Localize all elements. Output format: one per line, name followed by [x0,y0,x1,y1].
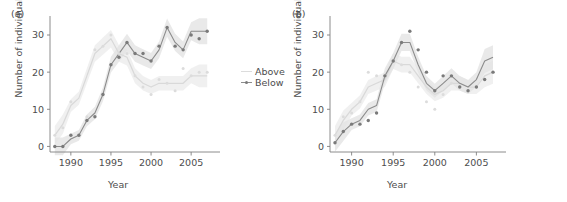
svg-text:30: 30 [32,29,44,40]
legend-item-below[interactable]: Below [240,77,285,88]
svg-text:1995: 1995 [381,157,405,168]
svg-text:1990: 1990 [59,157,83,168]
svg-text:10: 10 [312,104,324,115]
panel-a-plot: 01020301990199520002005 [0,0,284,202]
svg-text:0: 0 [38,141,44,152]
svg-text:1995: 1995 [99,157,123,168]
svg-text:2005: 2005 [464,157,488,168]
svg-text:10: 10 [32,104,44,115]
svg-text:2000: 2000 [139,157,163,168]
legend-item-above[interactable]: Above [240,66,285,77]
svg-text:0: 0 [318,141,324,152]
svg-text:2000: 2000 [423,157,447,168]
svg-text:1990: 1990 [340,157,364,168]
svg-text:20: 20 [312,67,324,78]
legend: Above Below [240,66,285,88]
legend-label-above: Above [255,66,285,77]
panel-b: (b) Number of individuals Year 010203019… [284,0,567,202]
figure-root: (a) Number of individuals Year 010203019… [0,0,567,202]
legend-key-above-icon [240,66,253,77]
panel-a: (a) Number of individuals Year 010203019… [0,0,284,202]
svg-text:2005: 2005 [179,157,203,168]
panel-b-plot: 01020301990199520002005 [284,0,567,202]
legend-label-below: Below [255,77,284,88]
legend-key-below-icon [240,77,253,88]
svg-text:30: 30 [312,29,324,40]
svg-text:20: 20 [32,67,44,78]
